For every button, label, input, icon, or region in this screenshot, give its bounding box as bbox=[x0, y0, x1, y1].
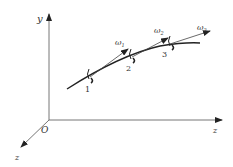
point-3-label: 3 bbox=[162, 50, 167, 59]
point-1-label: 1 bbox=[85, 85, 90, 94]
vortex-line-diagram: y z z O 1 2 3 ω1 ω2 ω3 bbox=[0, 0, 233, 167]
origin-label: O bbox=[41, 125, 49, 135]
omega-3-label: ω3 bbox=[197, 23, 207, 33]
axes bbox=[21, 14, 222, 147]
y-axis-label: y bbox=[36, 13, 43, 24]
omega-1-label: ω1 bbox=[115, 38, 125, 48]
point-2-label: 2 bbox=[126, 64, 131, 73]
vortex-line bbox=[67, 43, 200, 89]
horizontal-axis-label: z bbox=[212, 126, 218, 135]
omega-1-vector bbox=[90, 49, 128, 77]
omega-2-label: ω2 bbox=[154, 26, 164, 36]
diagonal-axis-label: z bbox=[14, 153, 20, 162]
